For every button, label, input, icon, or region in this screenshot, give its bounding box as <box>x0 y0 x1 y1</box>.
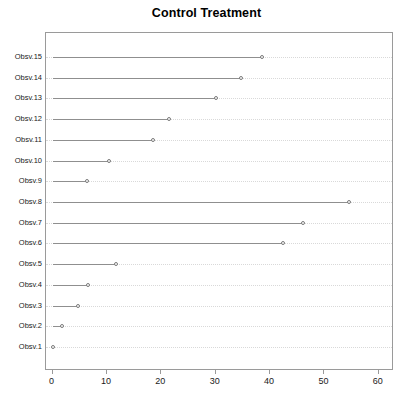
data-point-marker <box>347 200 351 204</box>
x-tick-label: 0 <box>49 376 54 386</box>
y-axis-labels: Obsv.1Obsv.2Obsv.3Obsv.4Obsv.5Obsv.6Obsv… <box>0 32 42 370</box>
x-tick-mark <box>323 370 324 374</box>
data-point-marker <box>60 324 64 328</box>
chart-root: Control Treatment Obsv.1Obsv.2Obsv.3Obsv… <box>0 0 413 408</box>
data-point-marker <box>281 241 285 245</box>
y-tick-label: Obsv.8 <box>0 197 42 206</box>
x-tick-label: 20 <box>155 376 165 386</box>
x-tick-label: 10 <box>101 376 111 386</box>
gridline <box>46 347 392 348</box>
y-tick-label: Obsv.10 <box>0 155 42 164</box>
gridline <box>46 181 392 182</box>
connector-line <box>53 98 216 99</box>
chart-title: Control Treatment <box>0 6 413 20</box>
y-tick-label: Obsv.4 <box>0 279 42 288</box>
y-tick-label: Obsv.13 <box>0 93 42 102</box>
data-point-marker <box>214 96 218 100</box>
data-point-marker <box>239 76 243 80</box>
connector-line <box>53 243 283 244</box>
x-tick-mark <box>160 370 161 374</box>
x-tick-mark <box>106 370 107 374</box>
connector-line <box>53 140 153 141</box>
data-point-marker <box>85 179 89 183</box>
x-tick-mark <box>215 370 216 374</box>
y-tick-label: Obsv.2 <box>0 321 42 330</box>
data-point-marker <box>151 138 155 142</box>
data-point-marker <box>114 262 118 266</box>
connector-line <box>53 202 350 203</box>
plot-area <box>45 32 393 370</box>
connector-line <box>53 223 303 224</box>
data-point-marker <box>86 283 90 287</box>
x-tick-mark <box>52 370 53 374</box>
y-tick-label: Obsv.6 <box>0 238 42 247</box>
y-tick-label: Obsv.1 <box>0 342 42 351</box>
connector-line <box>53 306 78 307</box>
data-point-marker <box>76 304 80 308</box>
x-tick-label: 30 <box>210 376 220 386</box>
x-tick-label: 50 <box>318 376 328 386</box>
y-tick-label: Obsv.5 <box>0 259 42 268</box>
connector-line <box>53 119 169 120</box>
connector-line <box>53 181 87 182</box>
y-tick-label: Obsv.15 <box>0 52 42 61</box>
data-point-marker <box>260 55 264 59</box>
x-tick-label: 40 <box>264 376 274 386</box>
x-tick-mark <box>269 370 270 374</box>
gridline <box>46 326 392 327</box>
data-point-marker <box>301 221 305 225</box>
connector-line <box>53 264 116 265</box>
connector-line <box>53 285 89 286</box>
y-tick-label: Obsv.11 <box>0 134 42 143</box>
x-tick-mark <box>378 370 379 374</box>
data-point-marker <box>107 159 111 163</box>
data-point-marker <box>167 117 171 121</box>
data-point-marker <box>51 345 55 349</box>
connector-line <box>53 78 242 79</box>
gridline <box>46 306 392 307</box>
x-tick-label: 60 <box>373 376 383 386</box>
y-tick-label: Obsv.7 <box>0 217 42 226</box>
y-tick-label: Obsv.12 <box>0 114 42 123</box>
gridline <box>46 285 392 286</box>
x-axis: 0102030405060 <box>45 370 393 400</box>
y-tick-label: Obsv.3 <box>0 300 42 309</box>
connector-line <box>53 57 262 58</box>
y-tick-label: Obsv.9 <box>0 176 42 185</box>
y-tick-label: Obsv.14 <box>0 72 42 81</box>
connector-line <box>53 161 110 162</box>
